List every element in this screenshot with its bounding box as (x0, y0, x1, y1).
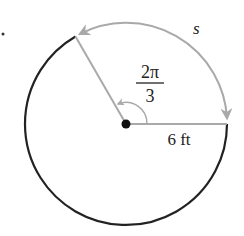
radius-line-angled (76, 37, 127, 125)
center-point (122, 120, 131, 129)
arc-label: s (193, 19, 200, 38)
angle-denominator: 3 (146, 86, 155, 106)
arc-length-diagram: s 2π 3 6 ft (0, 0, 244, 236)
radius-label: 6 ft (167, 130, 190, 149)
circle-outline (25, 37, 227, 225)
angle-arc (118, 102, 147, 124)
list-bullet (2, 33, 5, 36)
angle-numerator: 2π (141, 62, 159, 82)
